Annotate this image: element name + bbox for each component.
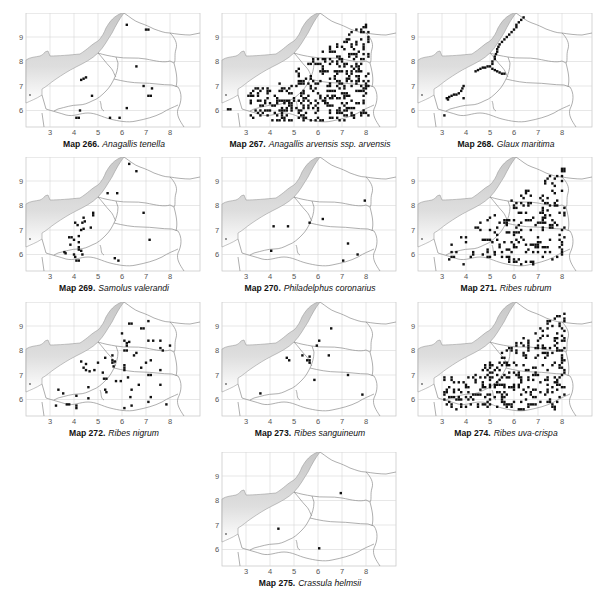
record-dot (350, 114, 352, 116)
record-dot (367, 36, 369, 38)
record-dot (525, 357, 527, 359)
record-dot (561, 354, 563, 356)
record-dot (353, 53, 355, 55)
record-dot (518, 384, 520, 386)
record-dot (78, 246, 80, 248)
record-dot (295, 70, 297, 72)
record-dot (489, 403, 491, 405)
record-dot (558, 315, 560, 317)
record-dot (465, 386, 467, 388)
record-dot (281, 107, 283, 109)
record-dot (305, 117, 307, 119)
record-dot (145, 28, 147, 30)
record-dot (537, 347, 539, 349)
record-dot (302, 119, 304, 121)
record-dot (489, 398, 491, 400)
record-dot (510, 403, 512, 405)
record-dot (68, 236, 70, 238)
record-dot (257, 95, 259, 97)
svg-text:8: 8 (560, 417, 564, 426)
record-dot (312, 107, 314, 109)
record-dot (443, 398, 445, 400)
record-dot (355, 102, 357, 104)
record-dot (544, 379, 546, 381)
record-dot (259, 104, 261, 106)
record-dot (298, 68, 300, 70)
record-dot (69, 244, 71, 246)
svg-text:9: 9 (215, 33, 219, 42)
record-dot (491, 63, 493, 65)
record-dot (491, 241, 493, 243)
record-dot (563, 317, 565, 319)
record-dot (561, 253, 563, 255)
record-dot (546, 379, 548, 381)
map-panel-266: 9 8 7 6 3 4 5 6 7 8 Map 266.Anagallis te… (18, 13, 210, 153)
record-dot (486, 393, 488, 395)
record-dot (104, 357, 106, 359)
record-dot (348, 75, 350, 77)
record-dot (503, 362, 505, 364)
record-dot (491, 364, 493, 366)
record-dot (364, 199, 366, 201)
record-dot (561, 248, 563, 250)
record-dot (537, 251, 539, 253)
svg-text:6: 6 (19, 106, 23, 115)
island-marker (225, 238, 227, 240)
svg-text:7: 7 (340, 567, 344, 576)
record-dot (322, 70, 324, 72)
record-dot (542, 330, 544, 332)
record-dot (508, 258, 510, 260)
record-dot (324, 102, 326, 104)
record-dot (123, 407, 125, 409)
record-dot (518, 408, 520, 410)
record-dot (489, 371, 491, 373)
map-panel-267: 9 8 7 6 3 4 5 6 7 8 Map 267.Anagallis ar… (214, 13, 406, 153)
record-dot (489, 364, 491, 366)
record-dot (546, 209, 548, 211)
record-dot (81, 222, 83, 224)
record-dot (546, 369, 548, 371)
record-dot (278, 119, 280, 121)
record-dot (561, 241, 563, 243)
record-dot (544, 222, 546, 224)
record-dot (286, 107, 288, 109)
record-dot (537, 236, 539, 238)
record-dot (128, 341, 130, 343)
record-dot (334, 75, 336, 77)
record-dot (142, 327, 144, 329)
svg-text:4: 4 (464, 417, 468, 426)
record-dot (105, 391, 107, 393)
record-dot (515, 364, 517, 366)
record-dot (300, 109, 302, 111)
record-dot (447, 98, 449, 100)
record-dot (355, 75, 357, 77)
record-dot (278, 82, 280, 84)
record-dot (314, 119, 316, 121)
svg-text:7: 7 (19, 371, 23, 380)
record-dot (262, 112, 264, 114)
record-dot (544, 251, 546, 253)
record-dot (355, 55, 357, 57)
record-dot (147, 401, 149, 403)
record-dot (147, 28, 149, 30)
record-dot (353, 48, 355, 50)
record-dot (229, 108, 231, 110)
record-dot (334, 90, 336, 92)
record-dot (448, 401, 450, 403)
record-dot (343, 85, 345, 87)
record-dot (556, 401, 558, 403)
record-dot (537, 241, 539, 243)
record-dot (350, 100, 352, 102)
record-dot (329, 46, 331, 48)
distribution-map: 9 8 7 6 3 4 5 6 7 8 (214, 452, 406, 578)
record-dot (343, 92, 345, 94)
record-dot (561, 374, 563, 376)
record-dot (84, 220, 86, 222)
record-dot (448, 258, 450, 260)
record-dot (341, 60, 343, 62)
record-dot (314, 82, 316, 84)
record-dot (365, 26, 367, 28)
record-dot (544, 202, 546, 204)
record-dot (130, 322, 132, 324)
record-dot (530, 219, 532, 221)
